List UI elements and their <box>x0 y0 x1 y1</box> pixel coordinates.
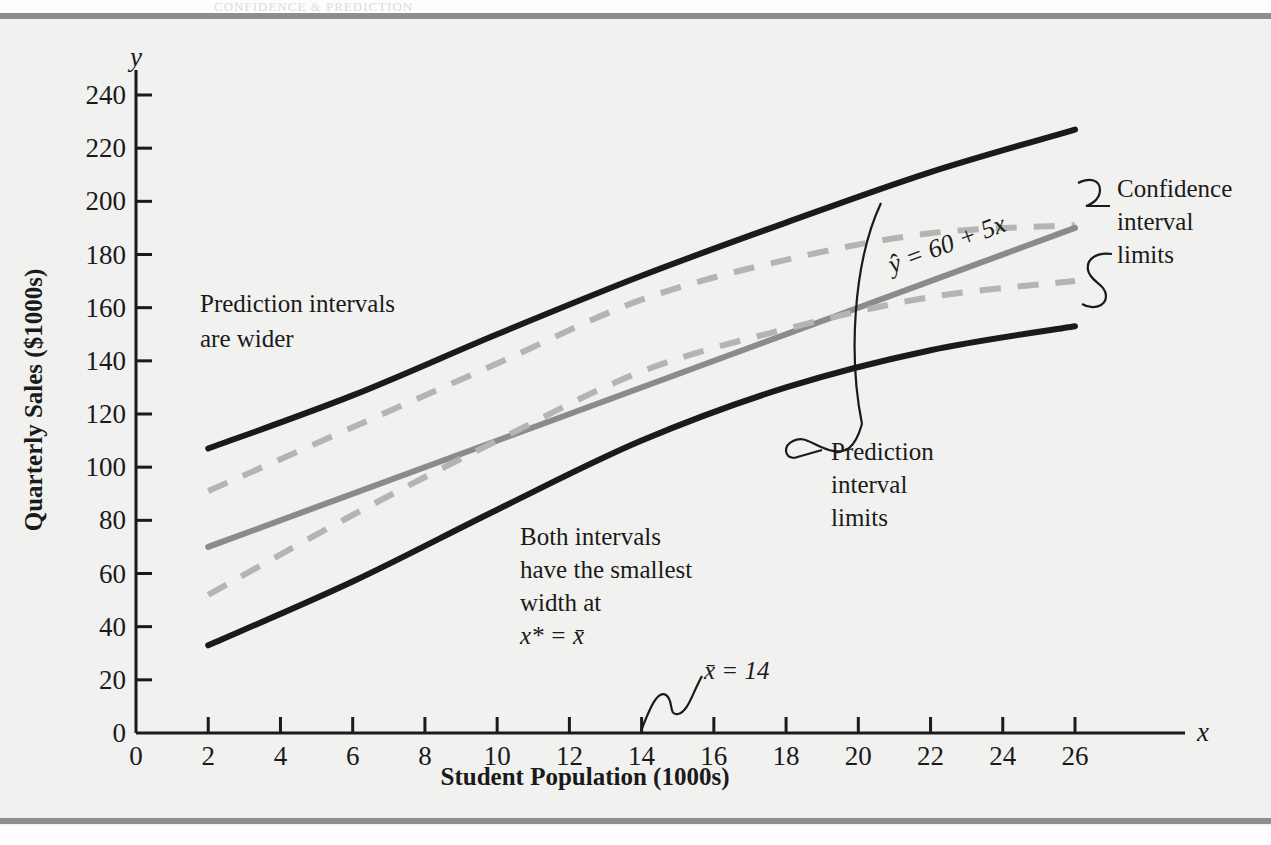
chart-svg: 020406080100120140160180200220240 024681… <box>0 0 1271 845</box>
confidence-upper-leader <box>1078 180 1110 206</box>
annotation-both-intervals-line4: x* = x̄ <box>519 622 584 649</box>
annotation-confidence-limits-line1: Confidence <box>1117 175 1232 202</box>
xbar-leader <box>641 676 702 731</box>
x-tick-label: 0 <box>129 741 143 771</box>
annotation-prediction-limits-line3: limits <box>831 504 888 531</box>
y-tick-marks <box>136 95 152 680</box>
y-tick-label: 20 <box>99 665 126 695</box>
annotation-confidence-limits-line2: interval <box>1117 208 1193 235</box>
x-tick-label: 4 <box>274 741 288 771</box>
annotation-both-intervals-line2: have the smallest <box>520 556 692 583</box>
annotation-both-intervals-line3: width at <box>520 589 601 616</box>
x-tick-label: 24 <box>989 741 1017 771</box>
y-tick-label: 0 <box>113 718 127 748</box>
annotation-prediction-limits-line1: Prediction <box>831 438 934 465</box>
y-tick-label: 180 <box>86 240 127 270</box>
annotation-x-bar: x̄ = 14 <box>703 657 769 684</box>
axes-group: 020406080100120140160180200220240 024681… <box>86 70 1186 771</box>
y-tick-label: 200 <box>86 186 127 216</box>
annotation-prediction-limits-line2: interval <box>831 471 907 498</box>
x-tick-label: 8 <box>418 741 432 771</box>
y-axis-title: Quarterly Sales ($1000s) <box>20 269 48 531</box>
prediction-interval-leader-tail <box>794 450 822 458</box>
annotation-prediction-wider-line1: Prediction intervals <box>200 290 395 317</box>
annotation-confidence-limits-line3: limits <box>1117 241 1174 268</box>
y-tick-label: 160 <box>86 293 127 323</box>
y-tick-label: 120 <box>86 399 127 429</box>
series-upper-confidence-limit <box>208 225 1075 491</box>
x-tick-label: 26 <box>1062 741 1089 771</box>
prediction-interval-brace <box>855 203 881 424</box>
y-axis-symbol: y <box>127 42 142 72</box>
series-lower-prediction-limit <box>208 326 1075 645</box>
x-tick-label: 18 <box>773 741 800 771</box>
x-axis-symbol: x <box>1196 717 1209 747</box>
annotation-prediction-wider-line2: are wider <box>200 325 294 352</box>
y-tick-label: 60 <box>99 559 126 589</box>
x-tick-label: 2 <box>201 741 215 771</box>
x-tick-label: 20 <box>845 741 872 771</box>
y-tick-labels: 020406080100120140160180200220240 <box>86 80 127 748</box>
y-tick-label: 220 <box>86 133 127 163</box>
figure-container: CONFIDENCE & PREDICTION 0204060801001201… <box>0 0 1271 845</box>
y-tick-label: 100 <box>86 452 127 482</box>
y-tick-label: 40 <box>99 612 126 642</box>
annotation-both-intervals-line1: Both intervals <box>520 523 661 550</box>
annotation-regression-equation: ŷ = 60 + 5x <box>881 209 1010 281</box>
x-tick-label: 22 <box>917 741 944 771</box>
y-tick-label: 140 <box>86 346 127 376</box>
x-axis-title: Student Population (1000s) <box>441 763 730 791</box>
y-tick-label: 240 <box>86 80 127 110</box>
x-tick-label: 6 <box>346 741 360 771</box>
y-tick-label: 80 <box>99 505 126 535</box>
confidence-lower-leader <box>1082 254 1112 307</box>
